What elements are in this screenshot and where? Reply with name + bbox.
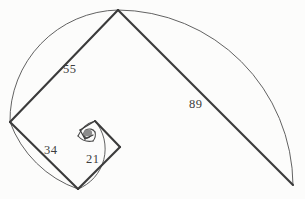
segment-13 (95, 121, 120, 147)
segment-89 (118, 10, 293, 185)
fibonacci-spiral-figure: 55 89 34 21 (0, 0, 305, 199)
label-55: 55 (63, 62, 77, 77)
label-21: 21 (86, 152, 100, 167)
segment-8 (80, 121, 95, 130)
arc-5 (93, 132, 95, 141)
figure-svg (0, 0, 305, 199)
label-34: 34 (44, 143, 58, 158)
label-89: 89 (189, 97, 203, 112)
